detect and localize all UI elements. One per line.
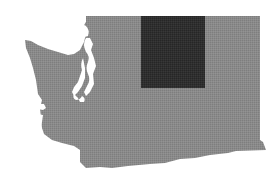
highlighted-region[interactable] [141,16,205,88]
washington-map [0,0,280,175]
map-container: Washington State Highlighted region (nor… [0,0,280,175]
